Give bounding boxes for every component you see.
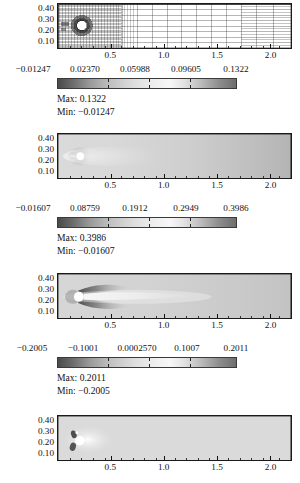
panel-field-1: 0.40 0.30 0.20 0.10: [0, 130, 300, 190]
max-label: Max: 0.2011: [57, 372, 110, 385]
colorbar-tick-label: −0.01607: [15, 203, 50, 213]
minmax-readout-field-1: Max: 0.3986 Min: −0.01607: [57, 232, 115, 257]
contour-field-2: [58, 274, 291, 318]
y-tick-label: 0.20: [38, 26, 54, 35]
panel-field-2: 0.40 0.30 0.20 0.10: [0, 270, 300, 330]
colorbar-tick-label: 0.1007: [174, 343, 199, 353]
x-tick-label: 2.0: [265, 181, 276, 190]
colorbar-block-field-2: −0.2005 −0.1001 0.0002570 0.1007 0.2011 …: [0, 343, 300, 399]
colorbar-tick-label: 0.3986: [223, 203, 248, 213]
contour-field-1: [58, 134, 291, 178]
colorbar-tick-label: −0.1001: [68, 343, 98, 353]
minmax-readout-field-2: Max: 0.2011 Min: −0.2005: [57, 372, 110, 397]
max-label: Max: 0.3986: [57, 232, 115, 245]
colorbar-tick-label: 0.2011: [224, 343, 249, 353]
x-tick-label: 1.5: [211, 51, 222, 60]
colorbar-mesh: [57, 78, 237, 89]
y-tick-label: 0.30: [38, 145, 54, 154]
colorbar-tick-label: −0.2005: [17, 343, 47, 353]
colorbar-tick-label: 0.02370: [70, 64, 100, 74]
y-tick-labels-field-3: 0.40 0.30 0.20 0.10: [28, 416, 54, 462]
colorbar-tick-marks-field-1: [58, 218, 236, 227]
colorbar-tick-labels-field-2: −0.2005 −0.1001 0.0002570 0.1007 0.2011: [0, 343, 300, 354]
y-tick-label: 0.30: [38, 427, 54, 436]
panel-mesh: 0.40 0.30 0.20 0.10: [0, 0, 300, 60]
x-tick-labels-field-3: 0.5 1.0 1.5 2.0: [57, 463, 292, 474]
x-tick-marks-field-3: [58, 456, 291, 460]
colorbar-block-field-1: −0.01607 0.08759 0.1912 0.2949 0.3986 Ma…: [0, 203, 300, 259]
x-tick-label: 0.5: [105, 181, 116, 190]
y-tick-label: 0.20: [38, 156, 54, 165]
x-tick-label: 1.0: [158, 181, 169, 190]
y-tick-label: 0.10: [38, 37, 54, 46]
contour-field-3: [58, 416, 291, 460]
y-tick-label: 0.40: [38, 416, 54, 425]
y-tick-labels-field-2: 0.40 0.30 0.20 0.10: [28, 274, 54, 320]
plot-area-mesh: [57, 3, 292, 49]
x-tick-label: 0.5: [105, 51, 116, 60]
min-label: Min: −0.2005: [57, 385, 110, 398]
colorbar-tick-marks-field-2: [58, 358, 236, 367]
x-tick-marks-field-1: [58, 174, 291, 178]
x-tick-label: 0.5: [105, 463, 116, 472]
y-tick-label: 0.20: [38, 438, 54, 447]
x-tick-label: 2.0: [265, 51, 276, 60]
colorbar-tick-labels-mesh: −0.01247 0.02370 0.05988 0.09605 0.1322: [0, 64, 300, 75]
x-tick-labels-field-1: 0.5 1.0 1.5 2.0: [57, 181, 292, 192]
colorbar-tick-label: 0.05988: [120, 64, 150, 74]
y-tick-labels-field-1: 0.40 0.30 0.20 0.10: [28, 134, 54, 180]
colorbar-tick-label: 0.1912: [122, 203, 147, 213]
x-tick-label: 0.5: [105, 321, 116, 330]
colorbar-tick-label: 0.0002570: [117, 343, 156, 353]
colorbar-tick-label: 0.09605: [171, 64, 201, 74]
y-tick-label: 0.40: [38, 4, 54, 13]
colorbar-field-2: [57, 357, 237, 368]
x-tick-label: 1.5: [211, 181, 222, 190]
colorbar-tick-label: 0.08759: [70, 203, 100, 213]
x-tick-label: 1.5: [211, 463, 222, 472]
y-tick-label: 0.30: [38, 285, 54, 294]
x-tick-labels-field-2: 0.5 1.0 1.5 2.0: [57, 321, 292, 332]
colorbar-tick-marks-mesh: [58, 79, 236, 88]
y-tick-label: 0.10: [38, 167, 54, 176]
colorbar-tick-label: −0.01247: [15, 64, 50, 74]
y-tick-label: 0.20: [38, 296, 54, 305]
x-tick-marks-mesh: [58, 44, 291, 48]
colorbar-tick-labels-field-1: −0.01607 0.08759 0.1912 0.2949 0.3986: [0, 203, 300, 214]
x-tick-label: 1.5: [211, 321, 222, 330]
x-tick-label: 1.0: [158, 321, 169, 330]
min-label: Min: −0.01247: [57, 106, 115, 119]
colorbar-tick-label: 0.1322: [223, 64, 248, 74]
x-tick-marks-field-2: [58, 314, 291, 318]
x-tick-labels-mesh: 0.5 1.0 1.5 2.0: [57, 51, 292, 62]
colorbar-tick-label: 0.2949: [173, 203, 198, 213]
colorbar-field-1: [57, 217, 237, 228]
figure-canvas: 0.40 0.30 0.20 0.10: [0, 0, 300, 483]
min-label: Min: −0.01607: [57, 245, 115, 258]
mesh-grid: [58, 4, 291, 48]
x-tick-label: 1.0: [158, 463, 169, 472]
panel-field-3: 0.40 0.30 0.20 0.10: [0, 412, 300, 472]
y-tick-label: 0.10: [38, 307, 54, 316]
y-tick-label: 0.40: [38, 134, 54, 143]
plot-area-field-2: [57, 273, 292, 319]
y-tick-label: 0.30: [38, 15, 54, 24]
plot-area-field-1: [57, 133, 292, 179]
x-tick-label: 2.0: [265, 463, 276, 472]
colorbar-block-mesh: −0.01247 0.02370 0.05988 0.09605 0.1322 …: [0, 64, 300, 120]
y-tick-label: 0.10: [38, 449, 54, 458]
plot-area-field-3: [57, 415, 292, 461]
x-tick-label: 2.0: [265, 321, 276, 330]
max-label: Max: 0.1322: [57, 93, 115, 106]
y-tick-label: 0.40: [38, 274, 54, 283]
x-tick-label: 1.0: [158, 51, 169, 60]
y-tick-labels-mesh: 0.40 0.30 0.20 0.10: [28, 4, 54, 50]
minmax-readout-mesh: Max: 0.1322 Min: −0.01247: [57, 93, 115, 118]
